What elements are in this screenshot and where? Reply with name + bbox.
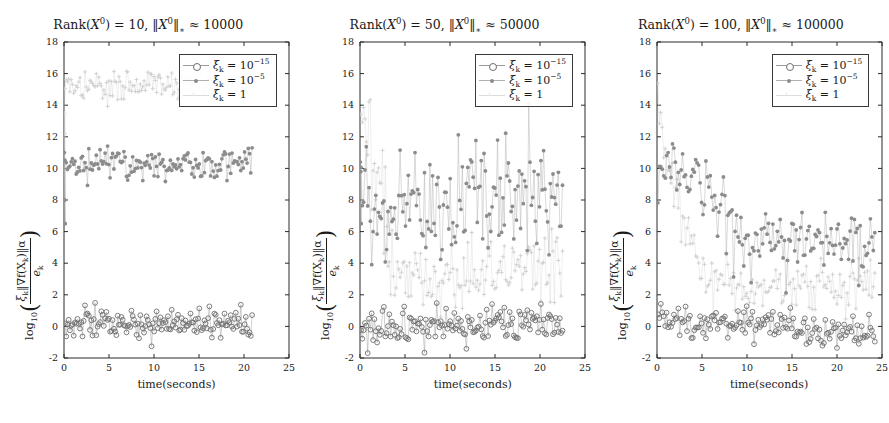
data-point: [495, 193, 499, 197]
data-point: [778, 218, 782, 222]
y-axis-title: log10(ξk‖∇f(Xk)‖αek): [609, 230, 638, 340]
data-point: [841, 246, 845, 250]
data-point: [854, 231, 858, 235]
legend-marker-sample: [776, 75, 802, 87]
data-point: [520, 172, 524, 176]
data-point: [718, 203, 722, 207]
legend-marker-sample: [183, 60, 209, 72]
data-point: [194, 158, 198, 162]
data-point: [459, 207, 463, 211]
series-line: [64, 146, 252, 224]
data-point: [376, 232, 380, 236]
data-point: [365, 140, 369, 144]
data-point: [747, 252, 751, 256]
data-point: [547, 253, 551, 257]
y-tick-label: 2: [348, 289, 354, 300]
data-point: [835, 227, 839, 231]
data-point: [363, 168, 367, 172]
data-point: [792, 249, 796, 253]
data-point: [708, 174, 712, 178]
data-point: [707, 185, 711, 189]
x-tick-label: 20: [534, 362, 546, 373]
data-point: [731, 275, 735, 279]
data-point: [696, 261, 700, 265]
data-point: [553, 196, 557, 200]
data-point: [249, 171, 253, 175]
data-point: [405, 264, 409, 268]
y-axis-title: log10(ξk‖∇f(Xk)‖αek): [16, 230, 45, 340]
data-point: [868, 258, 872, 262]
y-tick-label: 16: [342, 68, 354, 79]
data-point: [423, 279, 427, 283]
data-point: [804, 264, 808, 268]
data-point: [191, 166, 195, 170]
data-point: [859, 280, 863, 284]
data-point: [515, 218, 519, 222]
data-point: [739, 271, 743, 275]
data-point: [845, 238, 849, 242]
data-point: [103, 151, 107, 155]
data-point: [560, 224, 564, 228]
data-point: [461, 306, 465, 310]
data-point: [660, 167, 664, 171]
x-tick-label: 15: [193, 362, 205, 373]
data-point: [445, 190, 449, 194]
y-tick-label: 14: [46, 99, 58, 110]
data-point: [485, 265, 489, 269]
data-point: [422, 234, 426, 238]
data-point: [250, 146, 254, 150]
data-point: [507, 161, 511, 165]
data-point: [415, 262, 419, 266]
data-point: [186, 151, 190, 155]
data-point: [210, 160, 214, 164]
data-point: [363, 117, 367, 121]
data-point: [484, 169, 488, 173]
data-point: [393, 206, 397, 210]
legend-entry: ξk = 1: [183, 88, 270, 103]
data-point: [474, 285, 478, 289]
data-point: [359, 170, 363, 174]
data-point: [794, 228, 798, 232]
data-point: [439, 258, 443, 262]
data-point: [774, 244, 778, 248]
data-point: [385, 248, 389, 252]
data-point: [519, 227, 523, 231]
data-point: [489, 230, 493, 234]
data-point: [679, 240, 683, 244]
data-point: [407, 173, 411, 177]
data-point: [241, 166, 245, 170]
data-point: [803, 280, 807, 284]
data-point: [807, 224, 811, 228]
data-point: [462, 256, 466, 260]
y-tick-label: 12: [46, 131, 58, 142]
data-point: [400, 270, 404, 274]
data-point: [509, 276, 513, 280]
data-point: [839, 257, 843, 261]
y-tick-label: 10: [342, 163, 354, 174]
data-point: [846, 257, 850, 261]
data-point: [428, 277, 432, 281]
x-tick-label: 0: [654, 362, 660, 373]
data-point: [795, 260, 799, 264]
legend-entry-label: ξk = 10−5: [509, 72, 561, 89]
x-tick-label: 10: [741, 362, 753, 373]
data-point: [447, 227, 451, 231]
data-point: [756, 249, 760, 253]
data-point: [785, 258, 789, 262]
legend-marker-sample: [479, 75, 505, 87]
data-point: [737, 240, 741, 244]
data-point: [870, 295, 874, 299]
data-point: [416, 188, 420, 192]
data-point: [808, 280, 812, 284]
data-point: [384, 260, 388, 264]
data-point: [157, 152, 161, 156]
series-filled-circle: [62, 144, 254, 225]
data-point: [861, 265, 865, 269]
data-point: [701, 213, 705, 217]
data-point: [555, 236, 559, 240]
data-point: [685, 226, 689, 230]
data-point: [534, 219, 538, 223]
y-tick-label: 4: [52, 257, 58, 268]
data-point: [63, 132, 67, 136]
data-point: [477, 288, 481, 292]
